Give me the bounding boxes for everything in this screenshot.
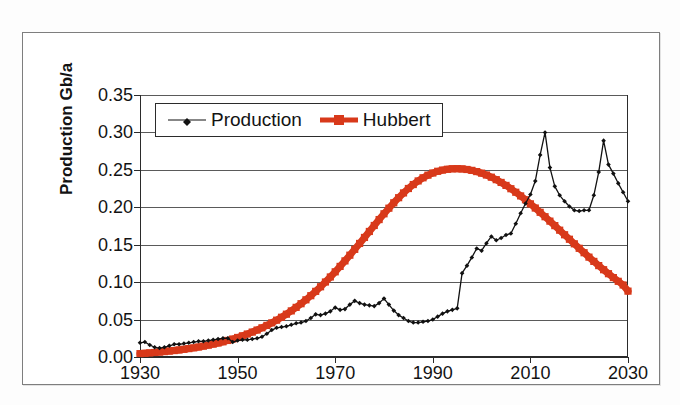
data-point: [455, 306, 460, 311]
data-point: [592, 193, 597, 198]
y-axis-tick-labels: 0.000.050.100.150.200.250.300.35: [71, 95, 133, 357]
data-point: [601, 138, 606, 143]
data-point: [543, 130, 548, 135]
y-tick-label: 0.30: [98, 122, 133, 143]
data-point: [533, 179, 538, 184]
y-tick-mark: [134, 95, 140, 96]
x-tick-mark: [433, 357, 434, 363]
x-tick-mark: [238, 357, 239, 363]
data-point: [509, 231, 514, 236]
legend-item-hubbert: Hubbert: [320, 109, 431, 131]
data-point: [513, 221, 518, 226]
square-marker-icon: [320, 113, 358, 127]
x-tick-label: 1970: [315, 363, 355, 384]
data-point: [172, 342, 177, 347]
y-tick-mark: [134, 320, 140, 321]
series-production: [138, 130, 631, 350]
legend-marker: [334, 115, 344, 125]
y-tick-label: 0.05: [98, 309, 133, 330]
data-point: [426, 319, 431, 324]
series-hubbert: [136, 165, 631, 357]
x-tick-mark: [335, 357, 336, 363]
y-tick-label: 0.35: [98, 85, 133, 106]
data-point: [445, 309, 450, 314]
data-point: [138, 340, 143, 345]
data-point: [538, 153, 543, 158]
data-point: [620, 281, 627, 288]
x-tick-label: 1950: [218, 363, 258, 384]
data-point: [411, 320, 416, 325]
data-point: [362, 302, 367, 307]
data-point: [323, 311, 328, 316]
legend-marker-lower: [183, 122, 191, 126]
data-point: [548, 165, 553, 170]
x-tick-mark: [140, 357, 141, 363]
y-tick-mark: [134, 132, 140, 133]
y-tick-mark: [134, 282, 140, 283]
data-point: [284, 324, 289, 329]
y-tick-label: 0.15: [98, 234, 133, 255]
x-tick-mark: [530, 357, 531, 363]
x-tick-label: 1990: [413, 363, 453, 384]
chart-legend: ProductionHubbert: [155, 103, 443, 137]
y-tick-mark: [134, 170, 140, 171]
data-point: [367, 303, 372, 308]
data-point: [518, 211, 523, 216]
data-point: [318, 313, 323, 318]
data-point: [279, 325, 284, 330]
x-tick-label: 1930: [120, 363, 160, 384]
data-point: [582, 208, 587, 213]
legend-label: Production: [211, 109, 302, 131]
data-point: [416, 320, 421, 325]
data-point: [577, 209, 582, 214]
figure-canvas: Production Gb/a 0.000.050.100.150.200.25…: [0, 0, 680, 405]
x-tick-label: 2030: [608, 363, 648, 384]
data-point: [596, 170, 601, 175]
series-line: [140, 132, 628, 348]
data-point: [255, 336, 260, 341]
data-point: [294, 321, 299, 326]
y-tick-label: 0.20: [98, 197, 133, 218]
data-point: [421, 320, 426, 325]
data-point: [299, 320, 304, 325]
gridline: [140, 357, 628, 358]
legend-item-production: Production: [168, 109, 302, 131]
y-tick-mark: [134, 207, 140, 208]
legend-marker: [183, 118, 191, 122]
legend-label: Hubbert: [363, 109, 431, 131]
data-point: [289, 323, 294, 328]
y-tick-mark: [134, 245, 140, 246]
y-tick-label: 0.25: [98, 159, 133, 180]
y-tick-label: 0.10: [98, 272, 133, 293]
data-point: [450, 308, 455, 313]
x-axis-tick-labels: 193019501970199020102030: [140, 363, 628, 393]
data-point: [338, 308, 343, 313]
data-point: [357, 301, 362, 306]
chart-frame: Production Gb/a 0.000.050.100.150.200.25…: [22, 32, 660, 385]
x-tick-mark: [628, 357, 629, 363]
diamond-marker-icon: [168, 113, 206, 127]
data-point: [587, 208, 592, 213]
data-point: [624, 288, 631, 295]
series-line: [140, 169, 628, 354]
x-tick-label: 2010: [510, 363, 550, 384]
